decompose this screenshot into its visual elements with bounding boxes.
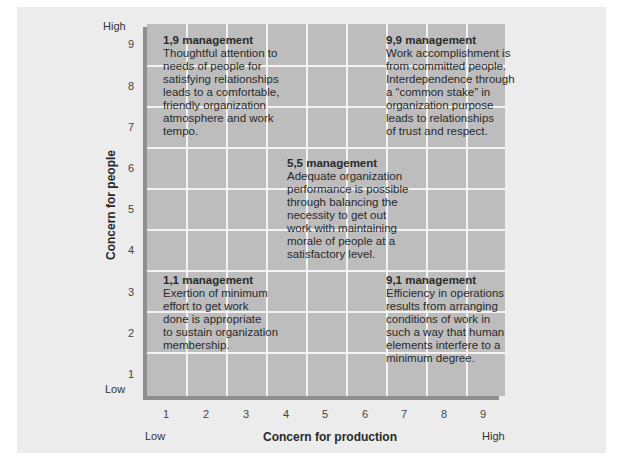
x-tick: 1 [156,408,176,420]
style-description: Work accomplishment is from committed pe… [386,47,515,138]
x-tick: 3 [236,408,256,420]
style-5-5: 5,5 management Adequate organization per… [287,157,408,261]
y-tick: 3 [114,286,134,298]
style-1-1: 1,1 management Exertion of minimum effor… [163,274,278,352]
x-tick: 6 [355,408,375,420]
style-title: 1,1 management [163,274,278,287]
y-axis-title: Concern for people [104,135,120,275]
y-axis-low-label: Low [105,383,125,395]
x-tick: 9 [473,408,493,420]
x-axis-low-label: Low [145,430,165,442]
grid-bottom-border [143,396,499,400]
x-tick: 7 [394,408,414,420]
x-tick: 2 [196,408,216,420]
x-tick: 4 [276,408,296,420]
y-tick: 2 [114,327,134,339]
y-tick: 8 [114,80,134,92]
style-description: Adequate organization performance is pos… [287,170,408,261]
style-description: Thoughtful attention to needs of people … [163,47,279,138]
grid-hline [147,147,505,149]
style-title: 9,9 management [386,34,515,47]
style-9-1: 9,1 management Efficiency in operations … [386,274,504,365]
style-title: 9,1 management [386,274,504,287]
style-title: 1,9 management [163,34,279,47]
x-axis-high-label: High [482,430,505,442]
x-axis-title: Concern for production [260,430,400,444]
style-description: Efficiency in operations results from ar… [386,287,504,365]
x-tick: 5 [315,408,335,420]
y-tick: 9 [114,38,134,50]
style-title: 5,5 management [287,157,408,170]
style-description: Exertion of minimum effort to get work d… [163,287,278,352]
y-axis-high-label: High [103,20,126,32]
x-tick: 8 [434,408,454,420]
style-9-9: 9,9 management Work accomplishment is fr… [386,34,515,138]
y-tick: 7 [114,121,134,133]
style-1-9: 1,9 management Thoughtful attention to n… [163,34,279,138]
y-tick: 1 [114,368,134,380]
grid-hline [147,270,505,272]
